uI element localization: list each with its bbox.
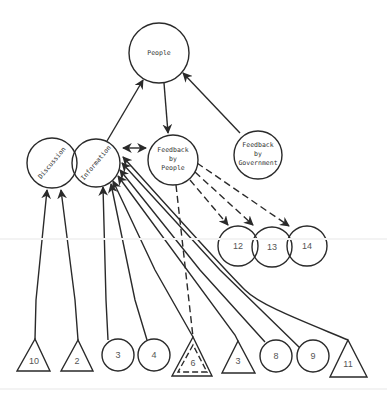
node-feedback-by-people: Feedback by People	[148, 135, 198, 185]
node-14: 14	[287, 226, 327, 266]
feedback-people-line1: Feedback	[157, 146, 188, 154]
people-label: People	[147, 49, 171, 57]
feedback-people-line3: People	[161, 164, 185, 172]
node-feedback-by-government: Feedback by Government	[234, 131, 282, 179]
node-3b: 3	[222, 341, 255, 373]
label-13: 13	[267, 242, 277, 252]
edge-8-to-information	[120, 170, 265, 342]
node-11: 11	[330, 340, 367, 377]
label-3b: 3	[235, 356, 240, 366]
edge-people-to-feedback-people	[164, 83, 168, 133]
diagram-svg: People Discussion Information Feedback b…	[0, 0, 387, 399]
edge-information-to-people	[107, 80, 143, 141]
label-11: 11	[343, 359, 352, 369]
feedback-government-line2: by	[254, 150, 262, 158]
discussion-label: Discussion	[36, 145, 67, 180]
node-information: Information	[72, 139, 120, 187]
edge-3a-to-information	[103, 187, 108, 340]
edge-6-to-information	[113, 181, 193, 337]
edges	[35, 73, 348, 348]
node-10: 10	[17, 339, 50, 371]
scan-artifact	[0, 388, 387, 390]
node-9: 9	[297, 340, 329, 372]
label-9: 9	[310, 351, 315, 361]
edge-10-to-discussion	[35, 190, 47, 339]
label-2: 2	[74, 356, 79, 366]
label-10: 10	[29, 356, 39, 366]
feedback-government-line1: Feedback	[242, 141, 273, 149]
edge-2-to-discussion	[61, 190, 78, 340]
edge-feedback-to-6	[176, 185, 193, 337]
information-label: Information	[79, 144, 113, 182]
node-6: 6	[172, 337, 212, 376]
label-3a: 3	[115, 350, 120, 360]
edge-feedback-to-12	[190, 180, 228, 225]
feedback-people-line2: by	[169, 155, 177, 163]
node-2: 2	[61, 340, 93, 371]
label-6: 6	[190, 358, 195, 368]
node-3a: 3	[102, 339, 134, 371]
node-4: 4	[138, 339, 170, 371]
triangle-6-outer	[172, 337, 212, 376]
edge-feedback-government-to-people	[183, 73, 240, 133]
edge-feedback-to-13	[195, 172, 253, 225]
label-12: 12	[233, 241, 243, 251]
scan-artifact	[0, 238, 387, 240]
label-14: 14	[302, 241, 312, 251]
label-8: 8	[273, 351, 278, 361]
node-8: 8	[260, 340, 292, 372]
node-discussion: Discussion	[27, 138, 77, 188]
label-4: 4	[151, 350, 156, 360]
diagram-canvas: People Discussion Information Feedback b…	[0, 0, 387, 399]
feedback-government-line3: Government	[238, 159, 277, 167]
triangle-10	[17, 339, 50, 371]
node-people: People	[129, 23, 189, 83]
